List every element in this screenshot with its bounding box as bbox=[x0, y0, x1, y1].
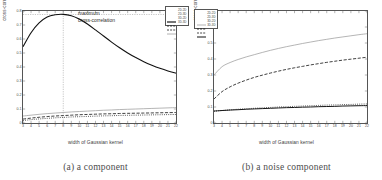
x-tick-label: 15 bbox=[118, 124, 122, 128]
series-line-2d-3d bbox=[214, 57, 367, 99]
legend-line-swatch bbox=[167, 21, 176, 23]
x-tick-label: 10 bbox=[77, 124, 81, 128]
x-tick-label: 11 bbox=[86, 124, 90, 128]
y-tick-label: 0.4 bbox=[208, 57, 213, 61]
plot-area-a bbox=[23, 11, 176, 123]
series-line-3d-3d bbox=[23, 108, 176, 116]
x-tick-label: 8 bbox=[62, 124, 64, 128]
caption-a: (a) a component bbox=[0, 162, 191, 172]
x-tick-label: 22 bbox=[174, 124, 178, 128]
x-tick-label: 12 bbox=[285, 124, 289, 128]
x-tick-label: 6 bbox=[46, 124, 48, 128]
legend-b[interactable]: 2D-2D2D-3D3D-2D3D-3D bbox=[194, 9, 218, 29]
x-tick-label: 17 bbox=[325, 124, 329, 128]
legend-line-swatch bbox=[197, 20, 206, 22]
panel-a-component: cross-correlation 3456789101112131415161… bbox=[0, 0, 191, 180]
x-tick-label: 18 bbox=[333, 124, 337, 128]
y-tick-label: 0.5 bbox=[17, 51, 22, 55]
x-tick-label: 12 bbox=[94, 124, 98, 128]
x-tick-label: 17 bbox=[134, 124, 138, 128]
x-tick-label: 20 bbox=[349, 124, 353, 128]
legend-line-swatch bbox=[197, 24, 206, 26]
x-tick-label: 6 bbox=[237, 124, 239, 128]
x-tick-label: 10 bbox=[268, 124, 272, 128]
y-tick-label: 0.2 bbox=[208, 89, 213, 93]
x-tick-label: 21 bbox=[357, 124, 361, 128]
y-tick-label: 0 bbox=[20, 121, 22, 125]
annotation-maximum-a: maximum cross-correlation bbox=[78, 10, 115, 25]
x-tick-label: 3 bbox=[22, 124, 24, 128]
figure-container: cross-correlation 3456789101112131415161… bbox=[0, 0, 382, 180]
y-tick-label: 0.6 bbox=[17, 37, 22, 41]
annotation-line-2: cross-correlation bbox=[78, 17, 115, 24]
x-tick-label: 5 bbox=[38, 124, 40, 128]
x-tick-label: 7 bbox=[54, 124, 56, 128]
x-tick-label: 9 bbox=[261, 124, 263, 128]
legend-line-swatch bbox=[197, 16, 206, 18]
panel-b-noise-component: cross-correlation 3456789101112131415161… bbox=[191, 0, 382, 180]
x-tick-label: 21 bbox=[166, 124, 170, 128]
legend-a[interactable]: 2D-2D2D-3D3D-2D3D-3D bbox=[165, 6, 189, 26]
x-tick-label: 7 bbox=[245, 124, 247, 128]
x-tick-label: 19 bbox=[150, 124, 154, 128]
x-tick-label: 9 bbox=[70, 124, 72, 128]
y-tick-label: 0.2 bbox=[17, 93, 22, 97]
legend-item[interactable]: 3D-3D bbox=[197, 23, 216, 27]
x-tick-label: 13 bbox=[102, 124, 106, 128]
x-tick-label: 8 bbox=[253, 124, 255, 128]
x-tick-label: 5 bbox=[229, 124, 231, 128]
y-tick-label: 0.3 bbox=[17, 79, 22, 83]
x-tick-label: 16 bbox=[126, 124, 130, 128]
x-tick-label: 14 bbox=[301, 124, 305, 128]
x-tick-label: 15 bbox=[309, 124, 313, 128]
x-tick-label: 16 bbox=[317, 124, 321, 128]
y-tick-label: 0.1 bbox=[208, 105, 213, 109]
x-tick-label: 20 bbox=[158, 124, 162, 128]
annotation-line-1: maximum bbox=[78, 10, 115, 17]
plot-area-b bbox=[214, 11, 367, 123]
y-tick-label: 0.7 bbox=[17, 23, 22, 27]
caption-b: (b) a noise component bbox=[191, 162, 382, 172]
legend-line-swatch bbox=[167, 9, 176, 11]
plot-b: cross-correlation 3456789101112131415161… bbox=[191, 4, 382, 144]
legend-line-swatch bbox=[167, 17, 176, 19]
y-tick-label: 0.4 bbox=[17, 65, 22, 69]
x-tick-label: 19 bbox=[341, 124, 345, 128]
series-line-3d-2d bbox=[23, 114, 176, 120]
y-tick-label: 0.1 bbox=[17, 107, 22, 111]
axes-a: 34567891011121314151617181920212200.10.2… bbox=[22, 10, 177, 124]
y-tick-label: 0.8 bbox=[17, 9, 22, 13]
y-tick-label: 0.5 bbox=[208, 41, 213, 45]
plot-a: cross-correlation 3456789101112131415161… bbox=[0, 4, 191, 144]
x-tick-label: 13 bbox=[293, 124, 297, 128]
x-tick-label: 22 bbox=[365, 124, 369, 128]
axes-b: 34567891011121314151617181920212200.10.2… bbox=[213, 10, 368, 124]
x-tick-label: 4 bbox=[30, 124, 32, 128]
x-tick-label: 18 bbox=[142, 124, 146, 128]
x-tick-label: 3 bbox=[213, 124, 215, 128]
y-tick-label: 0.3 bbox=[208, 73, 213, 77]
legend-line-swatch bbox=[197, 12, 206, 14]
legend-line-swatch bbox=[167, 13, 176, 15]
legend-item-label: 3D-3D bbox=[178, 20, 186, 24]
legend-item-label: 3D-3D bbox=[207, 23, 215, 27]
x-tick-label: 14 bbox=[110, 124, 114, 128]
legend-item[interactable]: 3D-3D bbox=[167, 20, 186, 24]
x-tick-label: 4 bbox=[221, 124, 223, 128]
x-axis-label-b: width of Gaussian kernel bbox=[191, 140, 382, 145]
x-tick-label: 11 bbox=[277, 124, 281, 128]
y-axis-label-a: cross-correlation bbox=[2, 0, 7, 38]
y-tick-label: 0 bbox=[211, 121, 213, 125]
x-axis-label-a: width of Gaussian kernel bbox=[0, 140, 191, 145]
